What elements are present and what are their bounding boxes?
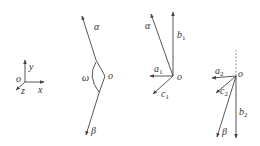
b1-sub: 1 — [182, 34, 186, 42]
angle-panel: α β ω o — [82, 16, 113, 136]
upper-edge — [96, 60, 105, 76]
c1-label: c1 — [161, 88, 169, 101]
vector-diagram: y x z o α β ω o α b1 a1 c1 o a2 c2 b2 — [0, 0, 260, 146]
beta-label: β — [221, 126, 227, 137]
b2-label: b2 — [239, 106, 248, 119]
origin-label: o — [16, 73, 21, 84]
origin-label: o — [238, 68, 243, 79]
origin-label: o — [177, 71, 182, 82]
a1-sub: 1 — [159, 68, 163, 76]
a2-vector — [212, 76, 236, 78]
c1-sub: 1 — [165, 93, 169, 101]
omega-arc — [92, 62, 99, 92]
omega-label: ω — [82, 72, 89, 83]
a1-label: a1 — [154, 63, 163, 76]
frame-2: a2 c2 b2 β o — [212, 50, 248, 138]
b1-label: b1 — [177, 29, 186, 42]
z-label: z — [20, 85, 25, 96]
lower-edge — [99, 76, 105, 93]
c2-sub: 2 — [224, 90, 228, 98]
frame-1: α b1 a1 c1 o — [145, 12, 186, 101]
y-label: y — [28, 61, 34, 72]
a2-sub: 2 — [220, 70, 224, 78]
alpha-label: α — [145, 20, 151, 31]
vertex-label: o — [108, 70, 113, 81]
c2-label: c2 — [220, 85, 228, 98]
a2-label: a2 — [215, 65, 224, 78]
alpha-label: α — [94, 21, 100, 32]
beta-label: β — [90, 125, 96, 136]
x-label: x — [37, 84, 43, 95]
coordinate-frame: y x z o — [16, 60, 44, 96]
b2-sub: 2 — [244, 111, 248, 119]
